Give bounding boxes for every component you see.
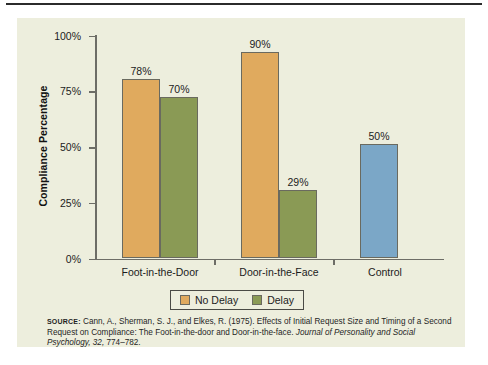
x-axis-label-door-in-the-face: Door-in-the-Face — [239, 266, 318, 278]
y-tick-label-100: 100% — [54, 30, 81, 42]
legend-swatch-delay — [252, 295, 262, 305]
legend-label-no-delay: No Delay — [195, 294, 238, 306]
bar-value-foot-in-the-door-delay: 70% — [168, 83, 189, 95]
y-tick-0: 0% — [89, 259, 95, 261]
y-tick-label-50: 50% — [60, 141, 81, 153]
x-axis-label-foot-in-the-door: Foot-in-the-Door — [121, 266, 198, 278]
bar-value-door-in-the-face-no-delay: 90% — [249, 38, 270, 50]
y-axis-line — [95, 35, 97, 260]
legend-swatch-no-delay — [180, 295, 190, 305]
bar-foot-in-the-door-delay[interactable]: 70% — [160, 97, 198, 258]
y-axis-title: Compliance Percentage — [37, 85, 49, 206]
source-text-part2: 774–782. — [104, 338, 140, 347]
y-tick-100: 100% — [89, 36, 95, 38]
bar-value-foot-in-the-door-no-delay: 78% — [130, 65, 151, 77]
figure-panel: Compliance Percentage 100% 75% 50% 25% 0… — [17, 18, 465, 347]
y-tick-50: 50% — [89, 147, 95, 149]
top-divider-rule — [6, 3, 482, 5]
bar-control[interactable]: 50% — [360, 144, 398, 258]
y-tick-label-75: 75% — [60, 85, 81, 97]
legend-label-delay: Delay — [267, 294, 294, 306]
legend-item-delay[interactable]: Delay — [252, 294, 294, 306]
y-tick-75: 75% — [89, 91, 95, 93]
source-label: Source: — [47, 318, 81, 325]
y-tick-label-0: 0% — [66, 253, 81, 265]
x-axis-line — [95, 259, 444, 261]
x-axis-separator-2 — [333, 259, 335, 265]
x-axis-separator-1 — [214, 259, 216, 265]
bar-value-control: 50% — [368, 130, 389, 142]
chart-legend: No Delay Delay — [170, 290, 304, 310]
bar-value-door-in-the-face-delay: 29% — [287, 176, 308, 188]
y-tick-25: 25% — [89, 203, 95, 205]
source-note: Source: Cann, A., Sherman, S. J., and El… — [47, 317, 453, 349]
y-tick-label-25: 25% — [60, 197, 81, 209]
x-axis-label-control: Control — [368, 266, 402, 278]
plot-area: 100% 75% 50% 25% 0% 78% 70% 90% 29% — [95, 35, 445, 260]
bar-foot-in-the-door-no-delay[interactable]: 78% — [122, 79, 160, 258]
bar-door-in-the-face-no-delay[interactable]: 90% — [241, 52, 279, 258]
legend-item-no-delay[interactable]: No Delay — [180, 294, 238, 306]
bar-door-in-the-face-delay[interactable]: 29% — [279, 190, 317, 258]
